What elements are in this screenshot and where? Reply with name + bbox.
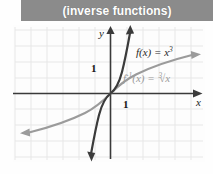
x-tick-label-1: 1 (123, 98, 129, 110)
y-axis-label: y (98, 27, 104, 39)
inverse-label-radical: √x (159, 72, 170, 84)
header-bar: (inverse functions) (21, 0, 213, 21)
inverse-label-text: (x) = (132, 72, 157, 85)
y-tick-label-1: 1 (91, 62, 97, 74)
graph-figure: y x 1 1 f(x) = x3 f-1(x) = 3√x (13, 25, 205, 162)
cubic-label-exponent: 3 (168, 45, 173, 54)
cubic-function-label: f(x) = x3 (136, 45, 173, 59)
figure-page: (inverse functions) (0, 0, 213, 174)
page-title: (inverse functions) (62, 4, 171, 18)
cubic-label-text: f(x) = x (136, 46, 169, 59)
x-axis-label: x (195, 96, 201, 108)
